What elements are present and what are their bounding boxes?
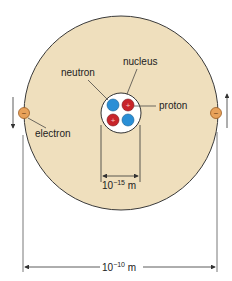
proton-label: proton bbox=[159, 100, 187, 111]
neutron-particle bbox=[122, 114, 134, 126]
nucleus-label: nucleus bbox=[123, 56, 157, 67]
proton-sign: + bbox=[111, 116, 116, 125]
atom-size-label: 10−10 m bbox=[102, 261, 136, 273]
neutron-label: neutron bbox=[61, 67, 95, 78]
electron-label: electron bbox=[35, 128, 71, 139]
electron-sign: − bbox=[22, 109, 27, 118]
atom-diagram: 10−10 m 10−15 m + + nucleus neutron prot… bbox=[0, 0, 232, 281]
neutron-particle bbox=[107, 99, 119, 111]
proton-sign: + bbox=[126, 101, 131, 110]
electron-sign: − bbox=[214, 109, 219, 118]
